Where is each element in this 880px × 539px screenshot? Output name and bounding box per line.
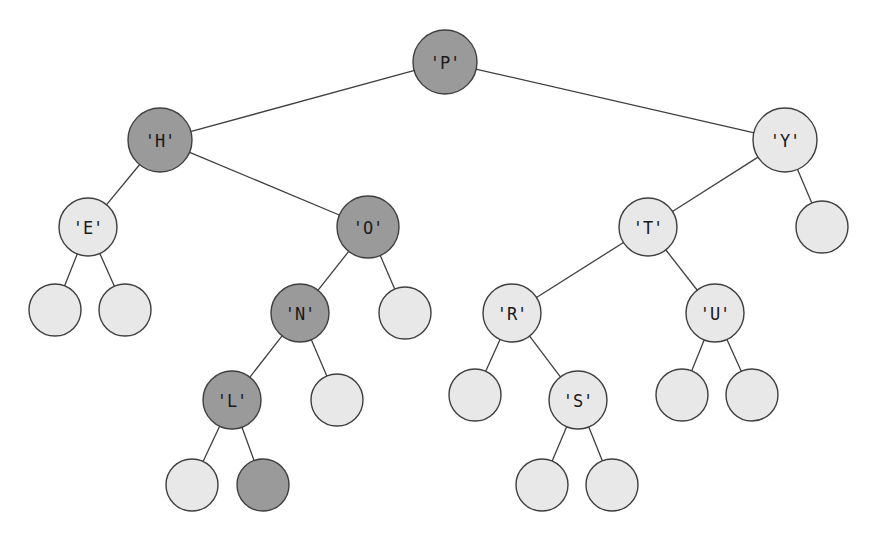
tree-node-o-label: 'O' xyxy=(353,218,384,238)
tree-leaf-sl xyxy=(516,459,568,511)
tree-node-l: 'L' xyxy=(203,371,261,429)
tree-edge-l-ll xyxy=(203,426,220,462)
tree-node-p: 'P' xyxy=(413,30,477,94)
tree-leaf-yr xyxy=(796,201,848,253)
tree-node-n: 'N' xyxy=(271,284,329,342)
tree-edge-o-n xyxy=(318,251,349,291)
tree-node-y: 'Y' xyxy=(753,108,817,172)
tree-leaf-rl-circle xyxy=(449,369,501,421)
tree-edge-h-o xyxy=(189,152,340,215)
tree-edge-e-el xyxy=(64,253,77,286)
tree-leaf-ur xyxy=(726,369,778,421)
tree-node-e: 'E' xyxy=(59,198,117,256)
tree-canvas: 'P''H''Y''E''O''T''N''R''U''L''S' xyxy=(0,0,880,539)
tree-leaf-ul-circle xyxy=(656,369,708,421)
tree-edge-o-or xyxy=(380,255,395,290)
tree-leaf-lr xyxy=(237,459,289,511)
tree-leaf-or xyxy=(379,287,431,339)
tree-node-s-label: 'S' xyxy=(563,391,594,411)
tree-leaf-or-circle xyxy=(379,287,431,339)
tree-edge-s-sr xyxy=(589,426,603,461)
tree-edge-h-e xyxy=(106,164,140,205)
tree-edge-u-ul xyxy=(692,339,705,371)
binary-tree-diagram: 'P''H''Y''E''O''T''N''R''U''L''S' xyxy=(0,0,880,539)
tree-edge-r-rl xyxy=(485,339,500,372)
tree-node-u-label: 'U' xyxy=(700,304,731,324)
tree-node-n-label: 'N' xyxy=(285,304,316,324)
tree-leaf-ll xyxy=(166,459,218,511)
tree-node-e-label: 'E' xyxy=(73,218,104,238)
tree-edge-e-er xyxy=(100,253,115,287)
tree-leaf-nr xyxy=(311,374,363,426)
tree-leaf-nr-circle xyxy=(311,374,363,426)
tree-leaf-sr-circle xyxy=(586,459,638,511)
tree-node-s: 'S' xyxy=(549,371,607,429)
tree-node-t-label: 'T' xyxy=(633,218,664,238)
tree-leaf-er xyxy=(99,284,151,336)
tree-edge-t-u xyxy=(666,249,698,290)
node-layer: 'P''H''Y''E''O''T''N''R''U''L''S' xyxy=(29,30,848,511)
tree-edge-y-yr xyxy=(797,169,812,204)
tree-leaf-el xyxy=(29,284,81,336)
tree-leaf-yr-circle xyxy=(796,201,848,253)
tree-edge-y-t xyxy=(672,157,758,212)
tree-edge-p-h xyxy=(190,70,414,131)
tree-leaf-sl-circle xyxy=(516,459,568,511)
tree-node-o: 'O' xyxy=(337,196,399,258)
tree-edge-t-r xyxy=(536,242,624,298)
tree-node-l-label: 'L' xyxy=(217,391,248,411)
tree-node-y-label: 'Y' xyxy=(770,131,801,151)
tree-edge-u-ur xyxy=(727,339,742,372)
tree-edge-p-y xyxy=(476,69,755,133)
tree-leaf-el-circle xyxy=(29,284,81,336)
tree-node-h: 'H' xyxy=(128,108,192,172)
tree-edge-n-l xyxy=(250,335,283,377)
tree-leaf-ur-circle xyxy=(726,369,778,421)
tree-leaf-sr xyxy=(586,459,638,511)
tree-leaf-ul xyxy=(656,369,708,421)
tree-leaf-rl xyxy=(449,369,501,421)
tree-node-h-label: 'H' xyxy=(145,131,176,151)
tree-edge-n-nr xyxy=(311,339,327,376)
tree-node-u: 'U' xyxy=(686,284,744,342)
tree-node-r-label: 'R' xyxy=(497,304,528,324)
tree-leaf-ll-circle xyxy=(166,459,218,511)
tree-node-t: 'T' xyxy=(619,198,677,256)
tree-leaf-er-circle xyxy=(99,284,151,336)
tree-leaf-lr-circle xyxy=(237,459,289,511)
tree-node-r: 'R' xyxy=(483,284,541,342)
tree-edge-r-s xyxy=(529,336,561,378)
tree-edge-s-sl xyxy=(552,426,567,461)
tree-node-p-label: 'P' xyxy=(430,53,461,73)
tree-edge-l-lr xyxy=(242,427,254,461)
